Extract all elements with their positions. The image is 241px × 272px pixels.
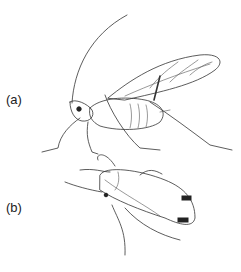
wing — [108, 55, 220, 100]
body — [89, 98, 163, 129]
siphunculus-1 — [182, 196, 191, 200]
body-b — [100, 170, 195, 225]
winged-aphid-drawing — [42, 15, 232, 154]
front-leg — [42, 118, 80, 152]
leg-b-4 — [140, 170, 162, 175]
eye — [77, 107, 81, 111]
mid-leg-1 — [87, 122, 98, 154]
leg-b-2 — [112, 205, 125, 255]
siphunculus-2 — [178, 218, 188, 222]
eye-b — [104, 193, 108, 197]
hind-leg — [150, 102, 232, 150]
leg-b-1 — [65, 182, 102, 192]
wingless-aphid-drawing — [65, 155, 195, 255]
aphid-illustration — [0, 0, 241, 272]
antenna-b-1 — [97, 155, 115, 166]
leg-b-3 — [125, 208, 180, 240]
